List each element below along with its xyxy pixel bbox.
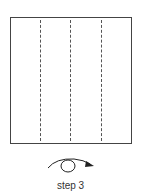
fold-line-1 — [40, 20, 41, 141]
paper-square — [10, 17, 132, 144]
step-label: step 3 — [0, 180, 141, 191]
turn-over-icon — [46, 156, 96, 176]
fold-line-2 — [70, 20, 71, 141]
fold-line-3 — [101, 20, 102, 141]
